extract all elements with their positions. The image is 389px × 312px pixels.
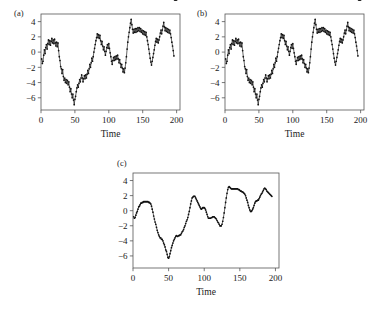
- panel-c-plot: 050100150200420−2−4−6Time: [95, 155, 295, 312]
- x-tick-label: 150: [233, 273, 247, 283]
- y-tick-label: 2: [123, 191, 128, 201]
- x-tick-label: 100: [197, 273, 211, 283]
- series-line: [226, 19, 358, 104]
- y-tick-label: −6: [118, 251, 128, 261]
- x-tick-label: 0: [39, 115, 44, 125]
- plot-frame: [41, 14, 180, 110]
- y-tick-label: 4: [31, 17, 36, 27]
- x-axis-title: Time: [285, 129, 305, 139]
- panel-b-plot: 050100150200420−2−4−6Time: [190, 0, 380, 155]
- y-tick-label: 0: [123, 206, 128, 216]
- panel-b-label: (b): [197, 8, 207, 18]
- y-tick-label: 2: [31, 32, 36, 42]
- x-tick-label: 50: [254, 115, 264, 125]
- x-tick-label: 200: [354, 115, 368, 125]
- x-tick-label: 50: [70, 115, 80, 125]
- plot-frame: [225, 14, 364, 110]
- y-tick-label: −6: [26, 93, 36, 103]
- panel-c-label: (c): [117, 158, 127, 168]
- x-tick-label: 100: [286, 115, 300, 125]
- x-axis-title: Time: [101, 129, 121, 139]
- series-markers: [133, 186, 273, 259]
- y-tick-label: −4: [26, 78, 36, 88]
- x-tick-label: 200: [170, 115, 184, 125]
- x-tick-label: 0: [131, 273, 136, 283]
- x-tick-label: 0: [223, 115, 228, 125]
- panel-a: (a) 050100150200420−2−4−6Time: [0, 0, 190, 155]
- x-tick-label: 150: [320, 115, 334, 125]
- panel-b: (b) 050100150200420−2−4−6Time: [190, 0, 380, 155]
- y-tick-label: 4: [123, 176, 128, 186]
- y-tick-label: −2: [210, 63, 220, 73]
- panel-a-label: (a): [14, 8, 24, 18]
- y-tick-label: −2: [26, 63, 36, 73]
- x-tick-label: 50: [164, 273, 174, 283]
- x-tick-label: 200: [269, 273, 283, 283]
- series-markers: [225, 0, 362, 106]
- series-markers: [41, 0, 178, 106]
- x-axis-title: Time: [196, 287, 216, 297]
- y-tick-label: 4: [215, 17, 220, 27]
- panel-c: (c) 050100150200420−2−4−6Time: [95, 155, 295, 312]
- y-tick-label: −4: [118, 236, 128, 246]
- y-tick-label: −6: [210, 93, 220, 103]
- y-tick-label: 0: [31, 47, 36, 57]
- y-tick-label: −2: [118, 221, 128, 231]
- series-line: [42, 19, 174, 104]
- panel-a-plot: 050100150200420−2−4−6Time: [0, 0, 190, 155]
- y-tick-label: 2: [215, 32, 220, 42]
- x-tick-label: 150: [136, 115, 150, 125]
- y-tick-label: −4: [210, 78, 220, 88]
- x-tick-label: 100: [102, 115, 116, 125]
- y-tick-label: 0: [215, 47, 220, 57]
